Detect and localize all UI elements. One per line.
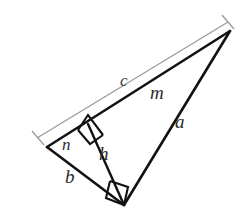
dimension-tick-start-icon xyxy=(32,131,44,145)
label-altitude-h: h xyxy=(99,144,109,163)
label-leg-a: a xyxy=(175,112,185,131)
label-segment-m: m xyxy=(150,83,164,102)
hypotenuse-dimension-group xyxy=(32,15,234,145)
label-hypotenuse-c: c xyxy=(120,72,128,89)
dimension-tick-end-icon xyxy=(222,15,234,29)
label-leg-b: b xyxy=(65,167,75,186)
geometry-diagram: c m a h n b xyxy=(0,0,242,224)
triangle-canvas xyxy=(0,0,242,224)
leg-b-segment xyxy=(47,147,124,205)
label-segment-n: n xyxy=(62,136,71,153)
hypotenuse-segment xyxy=(47,31,230,147)
